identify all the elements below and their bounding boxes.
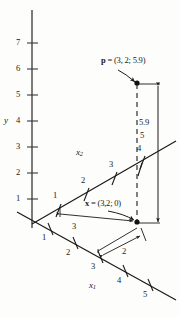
leader-p bbox=[118, 70, 135, 82]
x1-tick-5: 5 bbox=[143, 290, 147, 299]
point-p-coords: = (3, 2; 5.9) bbox=[106, 55, 146, 65]
x1-tick-3: 3 bbox=[91, 262, 95, 271]
axis-y bbox=[27, 10, 38, 228]
y-tick-4: 4 bbox=[16, 116, 20, 125]
point-x-label: x = (3,2; 0) bbox=[85, 199, 121, 208]
point-x-dot bbox=[134, 219, 139, 224]
axis-label-y: y bbox=[4, 116, 8, 125]
y-tick-7: 7 bbox=[16, 38, 20, 47]
axis-x2 bbox=[32, 141, 176, 224]
dimension-x1-label: 3 bbox=[72, 222, 76, 231]
figure-3d-axes: 7 6 5 4 3 2 1 y 1 2 3 4 5 x2 1 2 3 4 5 x… bbox=[0, 0, 180, 317]
dimension-height bbox=[137, 84, 160, 223]
y-tick-3: 3 bbox=[16, 142, 20, 151]
axis-label-x2: x2 bbox=[76, 148, 83, 158]
x2-tick-3: 3 bbox=[109, 160, 113, 169]
point-x-coords: = (3,2; 0) bbox=[89, 198, 121, 208]
axis-label-x2-sub: 2 bbox=[80, 150, 83, 157]
y-tick-5: 5 bbox=[16, 90, 20, 99]
figure-canvas bbox=[0, 0, 180, 317]
dimension-height-label: 5.9 bbox=[139, 118, 149, 127]
y-tick-1: 1 bbox=[16, 194, 20, 203]
x2-tick-1: 1 bbox=[53, 191, 57, 200]
dimension-x2-label: 2 bbox=[122, 247, 126, 256]
x1-tick-2: 2 bbox=[66, 248, 70, 257]
y-tick-2: 2 bbox=[16, 168, 20, 177]
point-p-dot bbox=[134, 80, 139, 85]
y-tick-6: 6 bbox=[16, 64, 20, 73]
x2-tick-5: 5 bbox=[140, 131, 144, 140]
axis-x1-ticks bbox=[48, 223, 153, 291]
x2-tick-4: 4 bbox=[137, 144, 141, 153]
x2-tick-2: 2 bbox=[81, 176, 85, 185]
axis-label-x1: x1 bbox=[89, 281, 96, 291]
x1-tick-1: 1 bbox=[42, 233, 46, 242]
point-p-label: p = (3, 2; 5.9) bbox=[101, 56, 145, 65]
x1-tick-4: 4 bbox=[117, 276, 121, 285]
axis-x1 bbox=[17, 212, 176, 300]
axis-label-x1-sub: 1 bbox=[93, 283, 96, 290]
